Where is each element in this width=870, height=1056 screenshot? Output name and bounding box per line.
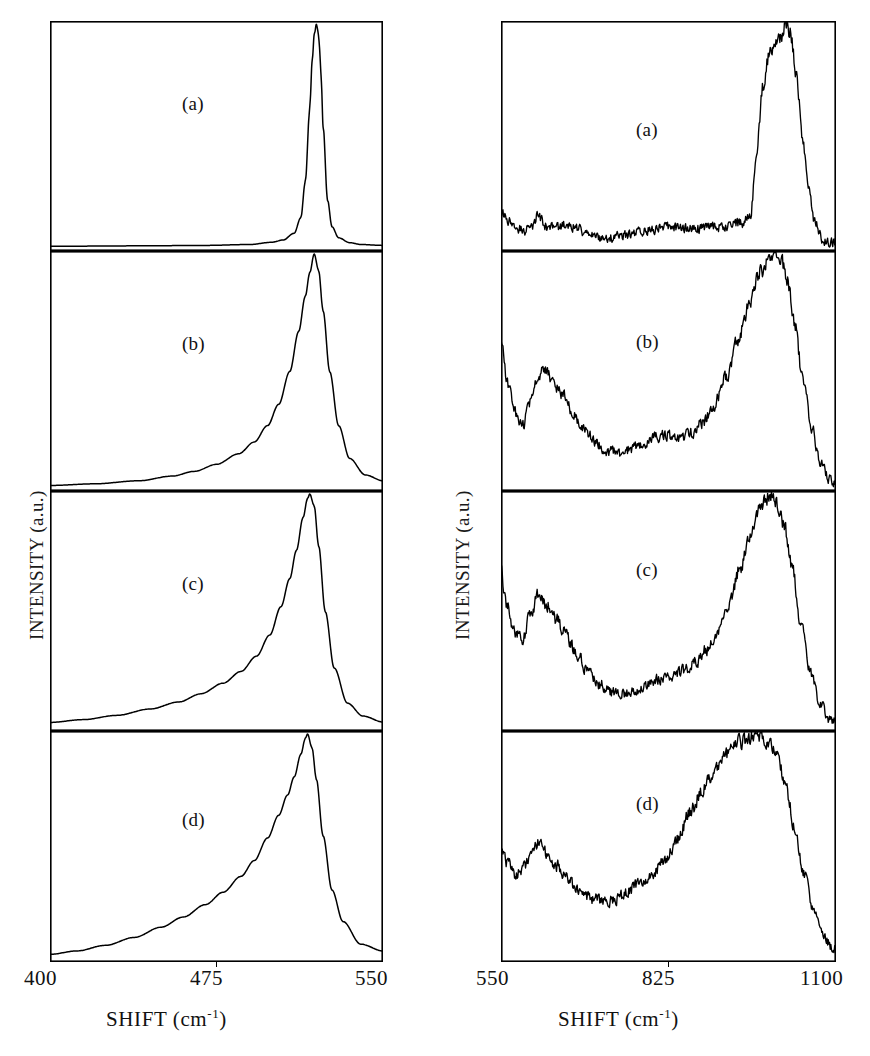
xtick-left-0: 400 [24, 966, 57, 991]
x-axis-label-left-text: SHIFT (cm [106, 1007, 207, 1031]
panel-right-b: (b) [501, 251, 836, 491]
y-axis-label-left: INTENSITY (a.u.) [26, 490, 48, 640]
x-axis-label-right-exponent: -1 [659, 1006, 671, 1021]
panel-label-right-c: (c) [636, 559, 658, 581]
panel-left-a: (a) [50, 21, 383, 251]
panel-left-d: (d) [50, 731, 383, 962]
right-panel-group: (a) (b) (c) (d) [501, 21, 836, 962]
xtick-left-2: 550 [355, 966, 388, 991]
xtick-left-1: 475 [190, 966, 223, 991]
panel-label-right-b: (b) [636, 331, 659, 353]
raman-spectra-figure: INTENSITY (a.u.) INTENSITY (a.u.) (a) (b… [0, 0, 870, 1056]
trace-right-c [501, 492, 836, 723]
x-axis-label-right-text: SHIFT (cm [558, 1007, 659, 1031]
panel-right-d: (d) [501, 731, 836, 962]
panel-left-c: (c) [50, 491, 383, 731]
xtick-right-0: 550 [476, 966, 509, 991]
panel-right-a: (a) [501, 21, 836, 251]
panel-label-left-b: (b) [182, 333, 205, 355]
x-axis-label-left: SHIFT (cm-1) [106, 1006, 227, 1032]
panel-label-right-d: (d) [636, 793, 659, 815]
x-axis-label-left-exponent: -1 [207, 1006, 219, 1021]
x-axis-label-right: SHIFT (cm-1) [558, 1006, 679, 1032]
trace-left-d [50, 734, 383, 954]
panel-label-right-a: (a) [636, 119, 658, 141]
panel-label-left-c: (c) [182, 573, 204, 595]
xtick-right-2: 1100 [800, 966, 843, 991]
trace-right-d [501, 732, 836, 952]
panel-label-left-d: (d) [182, 809, 205, 831]
trace-left-b [50, 254, 383, 485]
trace-left-c [50, 494, 383, 722]
panel-right-c: (c) [501, 491, 836, 731]
trace-left-a [50, 24, 383, 246]
left-panel-group: (a) (b) (c) (d) [50, 21, 383, 962]
panel-label-left-a: (a) [182, 93, 204, 115]
trace-right-b [501, 252, 836, 486]
y-axis-label-right: INTENSITY (a.u.) [452, 490, 474, 640]
x-axis-label-left-close: ) [219, 1007, 227, 1031]
xtick-right-1: 825 [642, 966, 675, 991]
trace-right-a [501, 22, 836, 247]
x-axis-label-right-close: ) [671, 1007, 679, 1031]
panel-left-b: (b) [50, 251, 383, 491]
